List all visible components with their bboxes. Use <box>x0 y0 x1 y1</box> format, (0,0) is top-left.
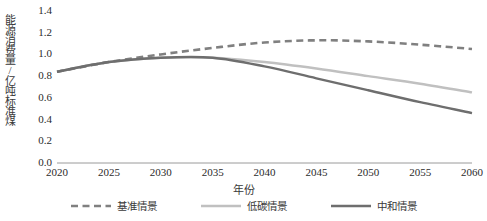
legend-label: 低碳情景 <box>247 198 287 213</box>
legend-item[interactable]: 基准情景 <box>71 198 157 213</box>
legend-swatch-solid <box>201 202 241 210</box>
x-tick-label: 2060 <box>452 167 487 178</box>
legend-swatch-solid <box>331 202 371 210</box>
x-tick-label: 2040 <box>245 167 285 178</box>
chart-legend: 基准情景低碳情景中和情景 <box>0 198 487 213</box>
legend-swatch-dashed <box>71 202 111 210</box>
legend-item[interactable]: 低碳情景 <box>201 198 287 213</box>
x-tick-label: 2050 <box>348 167 388 178</box>
series-line-1 <box>57 57 472 92</box>
legend-label: 中和情景 <box>377 198 417 213</box>
x-tick-label: 2020 <box>37 167 77 178</box>
x-tick-label: 2055 <box>400 167 440 178</box>
x-tick-label: 2025 <box>89 167 129 178</box>
series-line-2 <box>57 57 472 113</box>
x-tick-label: 2035 <box>193 167 233 178</box>
x-tick-label: 2030 <box>141 167 181 178</box>
x-tick-label: 2045 <box>296 167 336 178</box>
energy-consumption-line-chart: 能源消费量/亿吨标准煤 1.41.21.00.80.60.40.20.0 202… <box>0 0 487 221</box>
x-axis-title: 年份 <box>0 181 487 197</box>
legend-label: 基准情景 <box>117 198 157 213</box>
legend-item[interactable]: 中和情景 <box>331 198 417 213</box>
